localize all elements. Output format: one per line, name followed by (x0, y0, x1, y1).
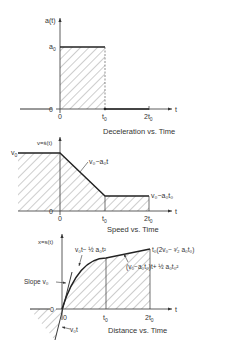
hatched-area (18, 153, 149, 211)
t0-tick: t0 (103, 314, 108, 323)
2t0-tick: 2t0 (144, 215, 153, 224)
hatched-area (60, 47, 105, 109)
panel-title: Speed vs. Time (107, 225, 159, 234)
zero-label: 0 (49, 208, 53, 215)
hatched-area-negative (30, 309, 62, 340)
origin-tick: 0 (58, 215, 62, 222)
t0-tick: t0 (102, 215, 107, 224)
zero-label: 0 (50, 306, 54, 313)
panel-title: Distance vs. Time (108, 326, 167, 335)
2t0-tick: 2t0 (144, 113, 153, 122)
curve-pointer (79, 255, 82, 266)
distance-panel: x=s(t) v₀t− ½ a₀t² t₀(2v₀− ³⁄₂ a₀t₀) (v₀… (24, 234, 194, 340)
x-axis-label: t (175, 106, 177, 113)
zero-label: 0 (49, 106, 53, 113)
x-axis-label: t (175, 208, 177, 215)
origin-tick: 0 (58, 113, 62, 120)
y-axis-label: v=ṡ(t) (37, 140, 52, 146)
level-label: v0 (11, 149, 18, 158)
2t0-tick: 2t0 (145, 314, 154, 323)
end-value-label: t₀(2v₀− ³⁄₂ a₀t₀) (152, 246, 194, 254)
slope-pointer (56, 282, 66, 283)
origin-tick: 0 (63, 314, 67, 321)
x-axis-label: t (175, 306, 177, 313)
t0-tick: t0 (102, 113, 107, 122)
deceleration-panel: a(t) a0 0 0 t0 2t0 t Deceleration vs. Ti… (20, 17, 177, 136)
level-label: a0 (49, 43, 56, 52)
curve-label: v₀t− ½ a₀t² (75, 246, 107, 253)
panel-title: Deceleration vs. Time (103, 127, 175, 136)
speed-panel: v=ṡ(t) v0 v₀−a₀t v₀−a₀t₀ 0 0 t0 2t0 t Sp… (11, 137, 177, 234)
y-axis-label: a(t) (45, 17, 56, 25)
tail-label: v₀−a₀t₀ (151, 192, 173, 199)
line-label: (v₀−a₀t₀)t+ ½ a₀t₀² (126, 263, 179, 271)
ramp-pointer (80, 162, 88, 172)
ramp-label: v₀−a₀t (89, 158, 108, 165)
tangent-label: v₀t (70, 326, 78, 333)
slope-label: Slope v₀ (24, 278, 49, 286)
kinematics-diagram: a(t) a0 0 0 t0 2t0 t Deceleration vs. Ti… (0, 0, 227, 355)
tangent-pointer (62, 327, 70, 329)
y-axis-label: x=s(t) (38, 239, 53, 245)
